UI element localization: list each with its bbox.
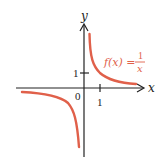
fraction-numerator: 1 <box>138 50 143 61</box>
fraction-denominator: x <box>137 63 143 74</box>
origin-label: 0 <box>75 90 81 102</box>
x-axis-label: x <box>148 81 155 95</box>
y-axis-label: y <box>80 9 88 23</box>
x-tick-label: 1 <box>97 96 103 108</box>
reciprocal-function-graph: y x 0 1 1 f(x) = 1 x <box>0 0 166 167</box>
curve-negative-branch <box>22 92 79 147</box>
y-tick-label: 1 <box>73 67 79 79</box>
function-label: f(x) = <box>103 56 136 69</box>
